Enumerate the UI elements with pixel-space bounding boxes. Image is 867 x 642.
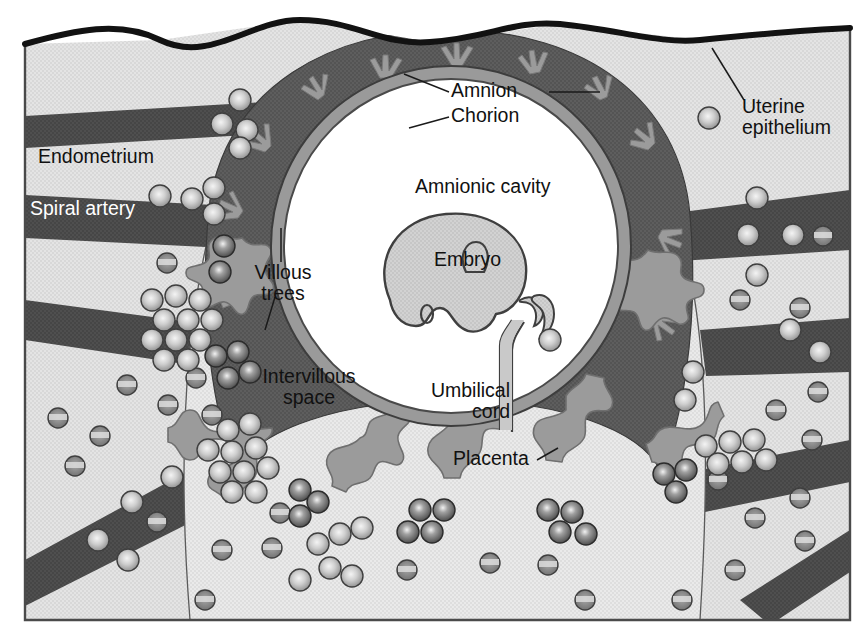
cell [165, 329, 187, 351]
cell [165, 285, 187, 307]
cell [121, 491, 143, 513]
cell [351, 517, 373, 539]
label-chorion: Chorion [451, 105, 519, 126]
cell [682, 361, 704, 383]
cell [141, 289, 163, 311]
cell [561, 501, 583, 523]
label-placenta: Placenta [453, 448, 529, 469]
label-amnionic-cavity: Amnionic cavity [415, 176, 550, 197]
cell [189, 329, 211, 351]
cell [117, 549, 139, 571]
cell [209, 261, 231, 283]
cell [539, 329, 561, 351]
cell [209, 461, 231, 483]
cell [549, 521, 571, 543]
figure-canvas: Uterine epithelium Endometrium Spiral ar… [0, 0, 867, 642]
cell [421, 521, 443, 543]
placenta-diagram [0, 0, 867, 642]
cell [329, 523, 351, 545]
cell [221, 441, 243, 463]
cell [731, 451, 753, 473]
cell [674, 389, 696, 411]
cell [537, 499, 559, 521]
cell [229, 137, 251, 159]
cell [141, 329, 163, 351]
cell [177, 309, 199, 331]
cell [575, 523, 597, 545]
cell [203, 177, 225, 199]
cell [779, 319, 801, 341]
cell [239, 413, 261, 435]
cell [319, 557, 341, 579]
cell [189, 289, 211, 311]
cell [149, 185, 171, 207]
cell [719, 431, 741, 453]
cell [409, 499, 431, 521]
label-villous-trees: Villous trees [237, 262, 329, 304]
cell [698, 107, 720, 129]
cell [245, 437, 267, 459]
cell [229, 89, 251, 111]
label-spiral-artery: Spiral artery [30, 198, 135, 219]
cell [197, 439, 219, 461]
cell [755, 449, 777, 471]
cell [153, 349, 175, 371]
cell [737, 224, 759, 246]
cell [707, 453, 729, 475]
cell [289, 505, 311, 527]
cell [245, 481, 267, 503]
cell [746, 187, 768, 209]
cell [675, 459, 697, 481]
label-amnion: Amnion [451, 80, 517, 101]
cell [217, 419, 239, 441]
cell [213, 235, 235, 257]
cell [397, 521, 419, 543]
cell [217, 367, 239, 389]
cell [153, 309, 175, 331]
cell [257, 457, 279, 479]
cell [289, 569, 311, 591]
label-embryo: Embryo [434, 249, 501, 270]
cell [341, 565, 363, 587]
cell [307, 491, 329, 513]
label-endometrium: Endometrium [38, 146, 154, 167]
cell [211, 113, 233, 135]
cell [203, 203, 225, 225]
cell [227, 341, 249, 363]
cell [433, 499, 455, 521]
cell [87, 529, 109, 551]
cell [746, 264, 768, 286]
label-intervillous-space: Intervillous space [248, 366, 370, 408]
cell [782, 224, 804, 246]
cell [201, 309, 223, 331]
label-uterine-epithelium: Uterine epithelium [742, 96, 831, 138]
cell [743, 429, 765, 451]
cell [233, 461, 255, 483]
label-umbilical-cord: Umbilical cord [410, 380, 510, 422]
cell [181, 188, 203, 210]
cell [809, 341, 831, 363]
endometrium-block [20, 14, 855, 626]
cell [177, 349, 199, 371]
cell [665, 481, 687, 503]
cell [205, 345, 227, 367]
cell [307, 533, 329, 555]
cell [221, 481, 243, 503]
cell [161, 466, 183, 488]
